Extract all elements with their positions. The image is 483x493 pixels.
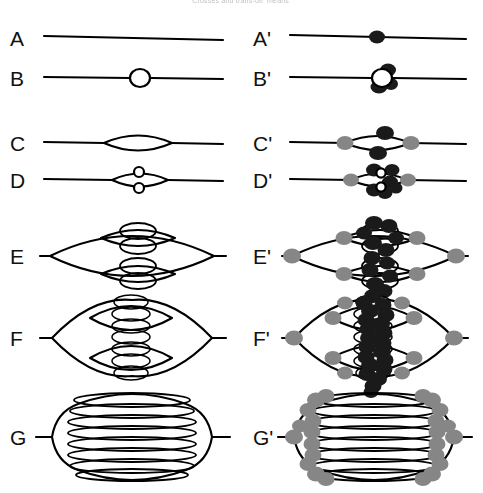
gray-node: [325, 311, 342, 325]
figure-root: Crosses and trans-off ‘means’ A A' B B': [0, 0, 483, 493]
gray-node: [415, 389, 432, 403]
dark-node: [379, 257, 395, 270]
gray-node: [445, 331, 463, 346]
row-label-b: B: [10, 67, 24, 90]
open-node: [134, 167, 144, 177]
dark-node: [381, 219, 398, 233]
open-node: [134, 183, 144, 193]
row-label-c: C: [10, 132, 25, 155]
gray-node: [406, 351, 423, 365]
axis-line-b-primed-left: [290, 77, 372, 78]
dark-node: [382, 270, 398, 283]
row-g-primed: G': [253, 389, 472, 486]
gray-node: [403, 136, 420, 150]
gray-node: [325, 351, 342, 365]
row-c-plain: C: [10, 132, 223, 155]
row-a-primed: A': [253, 27, 466, 50]
gray-node: [318, 472, 335, 486]
gray-node: [337, 297, 353, 310]
dark-node: [364, 251, 381, 265]
row-label-g: G: [10, 426, 26, 449]
open-node: [372, 69, 392, 87]
row-label-a-primed: A': [253, 27, 271, 50]
gray-node: [337, 367, 353, 380]
dark-node: [376, 126, 394, 140]
gray-node: [394, 367, 410, 380]
axis-line-b-right: [151, 78, 223, 79]
dark-node: [369, 146, 387, 160]
gray-node: [336, 267, 353, 281]
open-node: [376, 182, 385, 191]
gray-node: [336, 231, 353, 245]
row-label-c-primed: C': [253, 132, 272, 155]
row-b-plain: B: [10, 67, 223, 90]
row-label-f: F: [10, 327, 23, 350]
dark-node: [388, 232, 404, 245]
row-c-primed: C': [253, 126, 466, 160]
axis-line-d-left: [44, 179, 112, 180]
row-e-plain: E: [10, 223, 226, 289]
row-label-e: E: [10, 245, 24, 268]
outer-lens-e: [50, 236, 214, 276]
dark-node: [378, 243, 395, 257]
gray-node: [415, 472, 432, 486]
lens-c: [104, 136, 172, 151]
row-f-plain: F: [10, 295, 226, 380]
axis-line-d-primed-left: [290, 179, 351, 180]
axis-line-a: [44, 36, 223, 40]
open-node: [130, 69, 150, 87]
row-e-primed: E': [253, 216, 468, 298]
gray-node: [406, 311, 423, 325]
dark-node: [385, 164, 400, 176]
gray-node: [440, 420, 456, 433]
gray-node: [409, 267, 426, 281]
axis-line-c-right: [172, 143, 223, 144]
row-label-f-primed: F': [253, 327, 270, 350]
dark-node: [364, 386, 379, 398]
row-label-d: D: [10, 169, 25, 192]
row-label-b-primed: B': [253, 67, 271, 90]
row-d-primed: D': [253, 164, 466, 200]
gray-node: [394, 297, 410, 310]
row-label-g-primed: G': [253, 426, 273, 449]
gray-node: [400, 174, 416, 187]
gray-node: [318, 389, 335, 403]
row-label-a: A: [10, 27, 24, 50]
row-d-plain: D: [10, 167, 223, 193]
row-g-plain: G: [10, 393, 230, 481]
gray-node: [283, 249, 301, 264]
gray-node: [447, 249, 465, 264]
outer-lens-f: [52, 300, 212, 377]
axis-line-d-right: [168, 180, 223, 181]
dark-node: [369, 31, 385, 44]
axis-line-c-left: [44, 142, 104, 143]
dark-node: [362, 263, 379, 277]
row-b-primed: B': [253, 64, 466, 94]
gray-node: [337, 136, 354, 150]
open-node: [376, 168, 385, 177]
row-f-primed: F': [253, 284, 468, 398]
dark-node: [370, 284, 385, 296]
axis-line-b-left: [44, 77, 130, 78]
row-label-e-primed: E': [253, 245, 271, 268]
gray-node: [409, 231, 426, 245]
gray-node: [343, 174, 359, 187]
axis-line-b-primed-right: [392, 78, 466, 79]
dark-node: [390, 183, 403, 194]
row-label-d-primed: D': [253, 169, 272, 192]
row-a-plain: A: [10, 27, 223, 50]
gray-node: [292, 420, 308, 433]
figure-canvas: A A' B B' C: [0, 0, 483, 493]
gray-node: [285, 331, 303, 346]
